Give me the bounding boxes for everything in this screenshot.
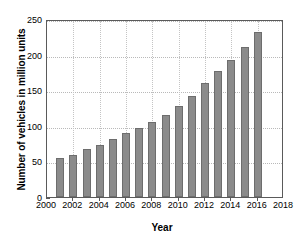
bar bbox=[122, 133, 130, 197]
bar bbox=[135, 128, 143, 197]
bar bbox=[214, 71, 222, 197]
bar bbox=[69, 155, 77, 197]
bar bbox=[148, 122, 156, 197]
bar bbox=[56, 158, 64, 197]
bar bbox=[109, 139, 117, 197]
plot-area bbox=[46, 20, 283, 198]
bar bbox=[188, 96, 196, 197]
bar bbox=[241, 47, 249, 197]
bar bbox=[227, 60, 235, 197]
bar-chart: Number of vehicles in million units 0501… bbox=[0, 0, 304, 243]
bar bbox=[162, 115, 170, 197]
x-axis-label: Year bbox=[40, 222, 284, 233]
bar bbox=[96, 145, 104, 197]
bar bbox=[254, 32, 262, 197]
x-tick-label: 2018 bbox=[268, 201, 298, 210]
bar bbox=[175, 106, 183, 197]
bar bbox=[201, 83, 209, 197]
gridline-horizontal bbox=[47, 21, 282, 22]
bar bbox=[83, 149, 91, 197]
